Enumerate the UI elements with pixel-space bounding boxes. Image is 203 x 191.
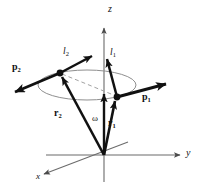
y-axis-label: y bbox=[186, 148, 190, 158]
momentum-p2-label: p2 bbox=[12, 62, 21, 72]
x-axis-line bbox=[44, 142, 128, 174]
angular-momentum-l1-label: l1 bbox=[110, 48, 116, 58]
p2-symbol: p bbox=[12, 61, 18, 72]
angular-momentum-l2-label: l2 bbox=[63, 47, 69, 57]
position-r2-label: r2 bbox=[54, 108, 62, 118]
p1-subscript: 1 bbox=[148, 96, 151, 103]
z-axis-label: z bbox=[108, 4, 112, 14]
l1-subscript: 1 bbox=[113, 51, 116, 58]
p1-symbol: p bbox=[142, 91, 148, 102]
angular-velocity-omega-label: ω bbox=[92, 114, 98, 123]
particle-2-dot bbox=[57, 70, 64, 77]
momentum-p1-label: p1 bbox=[142, 92, 151, 102]
angular-momentum-vector-l1 bbox=[107, 59, 117, 97]
vector-diagram-canvas bbox=[0, 0, 203, 191]
l2-subscript: 2 bbox=[66, 50, 69, 57]
p2-subscript: 2 bbox=[18, 66, 21, 73]
angular-momentum-figure: z y x p1 p2 l1 l2 r1 r2 ω bbox=[0, 0, 203, 191]
x-axis-label: x bbox=[36, 172, 40, 181]
r1-subscript: 1 bbox=[112, 122, 115, 129]
r2-subscript: 2 bbox=[58, 112, 61, 119]
position-r1-label: r1 bbox=[108, 118, 116, 128]
particle-1-dot bbox=[114, 94, 121, 101]
momentum-vector-p2 bbox=[15, 73, 60, 92]
